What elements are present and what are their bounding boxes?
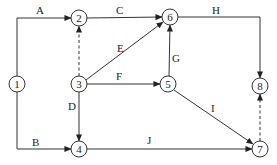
arrow-icon bbox=[86, 22, 163, 80]
node-label-7: 7 bbox=[257, 143, 263, 155]
node-2: 2 bbox=[71, 10, 87, 26]
node-4: 4 bbox=[71, 141, 87, 157]
edge-d: D bbox=[68, 92, 79, 141]
edge-f: F bbox=[87, 70, 160, 84]
edge-h: H bbox=[178, 4, 260, 78]
node-label-4: 4 bbox=[76, 143, 82, 155]
arrow-icon bbox=[178, 17, 260, 78]
arrow-icon bbox=[87, 17, 162, 18]
node-8: 8 bbox=[252, 78, 268, 94]
edge-label-e: E bbox=[117, 42, 124, 54]
edge-label-f: F bbox=[116, 70, 122, 82]
arrow-icon bbox=[169, 25, 170, 76]
edge-e: E bbox=[86, 22, 163, 80]
node-7: 7 bbox=[252, 141, 268, 157]
node-label-6: 6 bbox=[167, 11, 173, 23]
edge-label-g: G bbox=[172, 52, 180, 64]
edge-a: A bbox=[17, 4, 71, 76]
node-6: 6 bbox=[162, 9, 178, 25]
edge-label-b: B bbox=[32, 136, 39, 148]
edge-label-i: I bbox=[211, 102, 215, 114]
edge-label-j: J bbox=[147, 134, 152, 146]
network-diagram: A B C E F D G H I bbox=[0, 0, 277, 165]
arrow-icon bbox=[174, 90, 253, 144]
edge-b: B bbox=[17, 92, 71, 149]
edge-i: I bbox=[174, 90, 253, 144]
node-label-8: 8 bbox=[257, 80, 263, 92]
node-5: 5 bbox=[160, 76, 176, 92]
edge-label-a: A bbox=[36, 4, 44, 16]
arrow-icon bbox=[17, 92, 71, 149]
arrow-icon bbox=[17, 18, 71, 76]
edge-g: G bbox=[169, 25, 180, 76]
edge-j: J bbox=[87, 134, 252, 149]
edge-label-h: H bbox=[212, 4, 220, 16]
node-3: 3 bbox=[71, 76, 87, 92]
node-label-3: 3 bbox=[76, 78, 82, 90]
node-1: 1 bbox=[9, 76, 25, 92]
node-label-1: 1 bbox=[14, 78, 20, 90]
edge-label-c: C bbox=[116, 4, 123, 16]
edge-c: C bbox=[87, 4, 162, 18]
edge-label-d: D bbox=[68, 100, 76, 112]
node-label-2: 2 bbox=[76, 12, 82, 24]
node-label-5: 5 bbox=[165, 78, 171, 90]
